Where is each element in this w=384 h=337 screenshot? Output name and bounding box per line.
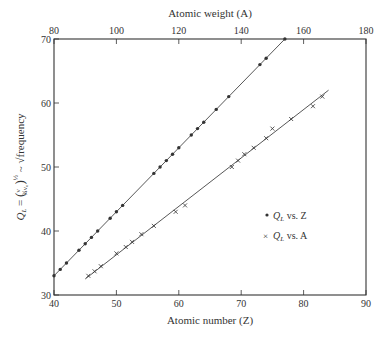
y-axis-title: QL = (ν¾ν₀)½ ~ √frequency [12,113,29,221]
bottom-axis-title: Atomic number (Z) [167,314,253,327]
data-point-z [177,146,180,149]
x-tick-label: 70 [236,298,246,309]
data-point-z [215,108,218,111]
chart: 405060708090801001201401601803040506070 … [0,0,384,337]
x2-tick-label: 180 [359,25,374,36]
plot-frame [54,39,366,295]
x2-tick-label: 140 [234,25,249,36]
data-point-z [258,63,261,66]
data-point-z [65,261,68,264]
svg-text:QL vs. A: QL vs. A [273,230,308,243]
x-tick-label: 80 [299,298,309,309]
plot-axes [54,39,366,295]
y-title-q: Q [14,213,26,221]
data-point-z [165,159,168,162]
x-tick-label: 90 [361,298,371,309]
data-point-a [236,159,240,163]
data-point-z [196,127,199,130]
y-tick-label: 30 [41,290,51,301]
x-tick-label: 60 [174,298,184,309]
data-point-a [270,127,274,131]
x-tick-label: 50 [111,298,121,309]
data-point-z [158,165,161,168]
data-point-z [59,268,62,271]
legend: QL vs. Z × QL vs. A [263,210,308,243]
data-point-z [115,210,118,213]
data-point-a [152,224,156,228]
legend-item-a: × QL vs. A [263,230,308,243]
data-point-z [171,153,174,156]
data-point-a [183,203,187,207]
data-point-z [52,274,55,277]
x2-tick-label: 120 [171,25,186,36]
data-point-z [202,121,205,124]
data-point-z [108,217,111,220]
y-tick-label: 40 [41,226,51,237]
data-point-z [84,242,87,245]
svg-text:QL = (ν¾ν₀)½ ~ √frequency: QL = (ν¾ν₀)½ ~ √frequency [12,113,29,221]
x2-tick-label: 100 [109,25,124,36]
y-title-eq: = [14,197,26,209]
data-point-z [77,249,80,252]
data-point-z [190,133,193,136]
data-point-z [283,37,286,40]
y-title-den: ¾ν₀ [21,184,29,195]
data-point-a [174,210,178,214]
y-tick-label: 70 [41,34,51,45]
fit-line-z [54,39,285,276]
legend-item-z: QL vs. Z [265,210,306,223]
y-tick-label: 50 [41,162,51,173]
x2-tick-label: 160 [296,25,311,36]
y-tick-label: 60 [41,98,51,109]
fit-lines [54,39,329,279]
data-point-z [264,57,267,60]
data-point-a [289,117,293,121]
data-point-z [152,172,155,175]
y-title-tail: ~ √frequency [14,113,26,175]
axis-ticks: 405060708090801001201401601803040506070 [41,25,374,309]
dot-marker-icon [265,213,268,216]
svg-text:QL vs. Z: QL vs. Z [273,210,307,223]
data-point-a [264,136,268,140]
top-axis-title: Atomic weight (A) [168,7,252,20]
x-marker-icon: × [263,231,268,241]
data-point-z [90,236,93,239]
data-point-a [93,269,97,273]
data-point-z [96,229,99,232]
data-point-a [311,104,315,108]
data-point-a [252,146,256,150]
data-point-z [227,95,230,98]
data-point-z [121,204,124,207]
